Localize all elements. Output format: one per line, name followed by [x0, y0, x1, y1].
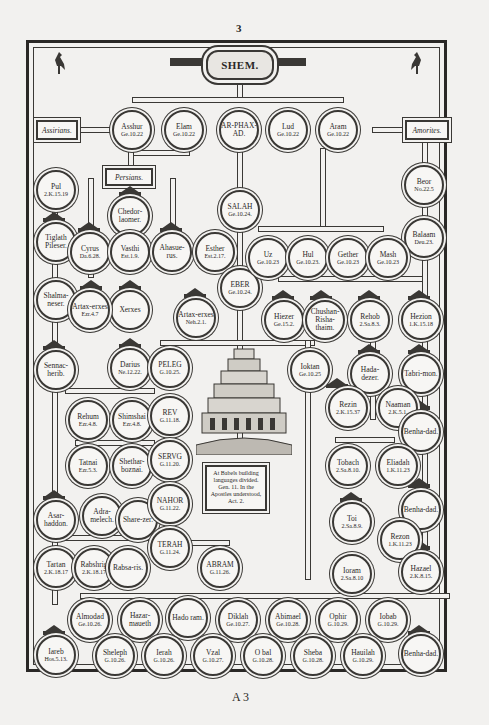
node-name: Chushan-Risha-thaim.: [307, 308, 343, 332]
node-eber[interactable]: EBERGe.10.24.: [220, 268, 260, 308]
crown-icon: [43, 490, 65, 500]
node-vasthi[interactable]: VasthiEst.1.9.: [110, 232, 150, 272]
node-name: O bal: [255, 649, 271, 657]
node-ref: Ge.10.23: [257, 259, 279, 265]
node-name: Rezon: [390, 533, 409, 541]
node-uz[interactable]: UzGe.10.23: [248, 238, 288, 278]
node-hezion[interactable]: Hezion1.K.15.18: [401, 300, 441, 340]
node-aram[interactable]: AramGe.10.22: [318, 110, 358, 150]
node-name: Eliadah: [387, 459, 410, 467]
node-name: Shimshai: [118, 413, 146, 421]
crown-icon: [80, 280, 102, 290]
node-tabrimon[interactable]: Tabri-mon.: [401, 354, 441, 394]
node-diklah[interactable]: DiklahGe.10.27.: [218, 600, 258, 640]
node-ref: Deu.23.: [415, 239, 434, 245]
node-serug[interactable]: SERVGG.11.20.: [150, 440, 190, 480]
node-beor[interactable]: BeorNo.22.5: [404, 165, 444, 205]
node-ophir[interactable]: OphirG.10.29.: [318, 600, 358, 640]
node-jareb[interactable]: IarebHos.5.13.: [36, 635, 76, 675]
node-jobab[interactable]: IobabG.10.29.: [368, 600, 408, 640]
node-toi[interactable]: Toi2.Sa.8.9.: [332, 502, 372, 542]
node-gether[interactable]: GetherGe.10.23: [328, 238, 368, 278]
node-jerah[interactable]: IerahG.10.26.: [144, 636, 184, 676]
node-ref: Ge.10.22: [327, 131, 349, 137]
node-reu[interactable]: REVG.11.18.: [150, 396, 190, 436]
node-cyrus[interactable]: CyrusDa.6.28.: [70, 232, 110, 272]
node-hazael[interactable]: Hazael2.K.8.15.: [401, 552, 441, 592]
node-ref: Ge.10.23.: [296, 259, 320, 265]
node-uzal[interactable]: VzalG.10.27.: [193, 636, 233, 676]
node-ref: Ge.10.23: [337, 259, 359, 265]
node-darius[interactable]: DariusNe.12.22.: [110, 348, 150, 388]
node-name: Shethar-boznai.: [114, 458, 150, 474]
crown-icon: [340, 492, 362, 502]
node-ref: Ezr.4.8.: [123, 421, 142, 427]
node-hul[interactable]: HulGe.10.23.: [288, 238, 328, 278]
node-esther[interactable]: EstherEst.2.17.: [195, 232, 235, 272]
node-tatnai[interactable]: TatnaiEzr.5.3.: [68, 446, 108, 486]
node-terah[interactable]: TERAHG.11.24.: [150, 528, 190, 568]
node-havilah[interactable]: HauilahG.10.29.: [343, 636, 383, 676]
node-adrammelech[interactable]: Adra-melech.: [82, 496, 122, 536]
node-artaxerxes-1[interactable]: Artax-erxesEzr.4.7: [70, 290, 110, 330]
node-salah[interactable]: SALAHGe.10.24.: [220, 190, 260, 230]
node-hadoram[interactable]: Hado ram.: [168, 598, 208, 638]
node-name: SERVG: [158, 453, 182, 461]
node-tartan[interactable]: Tartan2.K.18.17: [36, 548, 76, 588]
node-ahasuerus[interactable]: Ahasue-rus.: [152, 232, 192, 272]
node-name: REV: [163, 409, 178, 417]
node-hiezer[interactable]: HiezerGe.15.2.: [264, 300, 304, 340]
node-name: Tiglath Pileser.: [38, 234, 74, 250]
node-benhadad-3[interactable]: Benha-dad.: [401, 634, 441, 674]
crown-icon: [43, 340, 65, 350]
node-sheleph[interactable]: ShelephG.10.26.: [95, 636, 135, 676]
node-lud[interactable]: LudGe.10.22: [268, 110, 308, 150]
node-sheba[interactable]: ShebaG.10.28.: [293, 636, 333, 676]
node-abram[interactable]: ABRAMG.11.26.: [200, 548, 240, 588]
node-name: Aram: [329, 123, 346, 131]
node-shimshai[interactable]: ShimshaiEzr.4.8.: [112, 400, 152, 440]
node-ref: G.10.29.: [353, 657, 374, 663]
crown-icon: [358, 344, 380, 354]
node-eliadah[interactable]: Eliadah1.K.11.23: [378, 446, 418, 486]
node-shetharboznai[interactable]: Shethar-boznai.: [112, 446, 152, 486]
page-title: SHEM.: [221, 59, 259, 71]
node-elam[interactable]: ElamGe.10.22: [164, 110, 204, 150]
babel-note: At Babels building languages divided. Ge…: [205, 465, 267, 511]
node-artaxerxes-2[interactable]: Artax-erxesNeh.2.1.: [176, 298, 216, 338]
crown-icon: [119, 186, 141, 196]
node-name: Ioram: [343, 567, 361, 575]
node-joktan[interactable]: IoktanGe.10.25: [290, 350, 330, 390]
node-benhadad-1[interactable]: Benha-dad.: [401, 412, 441, 452]
node-balaam[interactable]: BalaamDeu.23.: [404, 218, 444, 258]
node-almodad[interactable]: AlmodadGe.10.26.: [70, 600, 110, 640]
node-rehum[interactable]: RehumEzr.4.8.: [68, 400, 108, 440]
node-ref: G.10.29.: [328, 621, 349, 627]
node-hazarmaveth[interactable]: Hazar-maueth: [120, 600, 160, 640]
node-name: Rabshrig: [80, 561, 107, 569]
node-asshur[interactable]: AsshurGe.10.22: [112, 110, 152, 150]
node-arphaxad[interactable]: AR-PHAX-AD.: [219, 110, 259, 150]
node-mash[interactable]: MashGe.10.23: [368, 238, 408, 278]
node-name: ABRAM: [206, 561, 234, 569]
node-chedorlaomer[interactable]: Chedor-laomer.: [110, 196, 150, 236]
node-sennacherib[interactable]: Sennac-herib.: [36, 350, 76, 390]
node-hadadezer[interactable]: Hada-dezer.: [350, 354, 390, 394]
node-abimael[interactable]: AbimaelGe.10.28.: [268, 600, 308, 640]
node-nahor[interactable]: NAHORG.11.22.: [150, 484, 190, 524]
node-rehob[interactable]: Rehob2.Sa.8.3.: [350, 300, 390, 340]
node-obal[interactable]: O balG.10.28.: [243, 636, 283, 676]
node-esarhaddon[interactable]: Asar-haddon.: [36, 500, 76, 540]
node-chushan-rishathaim[interactable]: Chushan-Risha-thaim.: [305, 300, 345, 340]
node-ref: Ge.10.22: [173, 131, 195, 137]
node-ref: Ge.10.23: [377, 259, 399, 265]
node-xerxes[interactable]: Xerxes: [110, 290, 150, 330]
node-pul[interactable]: Pul2.K.15.19: [36, 170, 76, 210]
node-joram[interactable]: Ioram2.Sa.8.10: [332, 554, 372, 594]
node-rabsaris[interactable]: Rabsa-ris.: [108, 548, 148, 588]
node-rezin[interactable]: Rezin2.K.15.37: [328, 388, 368, 428]
node-peleg[interactable]: PELEGG.10.25.: [150, 348, 190, 388]
node-name: Esther: [205, 245, 224, 253]
node-tobach[interactable]: Tobach2.Sa.8.10.: [328, 446, 368, 486]
node-name: TERAH: [158, 541, 183, 549]
